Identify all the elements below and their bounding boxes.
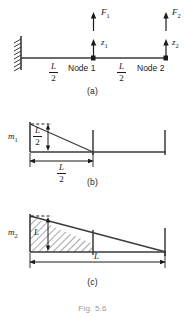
dof-arrow-z1: [91, 39, 96, 57]
label-node-2: Node 2: [137, 64, 164, 73]
label-height-b: L 2: [33, 126, 42, 147]
dof-arrow-z2: [163, 39, 168, 57]
panel-b: [29, 122, 166, 167]
beam-element-figure: [0, 0, 185, 318]
label-moment-m1: m1: [8, 132, 18, 143]
label-height-c: L: [34, 228, 39, 237]
panel-caption-a: (a): [0, 86, 185, 96]
label-dof-z1: z1: [101, 38, 108, 49]
label-length-c: L: [94, 252, 99, 261]
label-span-2: L 2: [117, 62, 126, 83]
label-force-f2: F2: [172, 8, 181, 19]
fixed-support-a: [14, 36, 21, 71]
force-arrow-f2: [163, 12, 168, 31]
hatched-region-c: [30, 216, 93, 252]
vertical-dimension-b: [46, 124, 50, 151]
panel-caption-c: (c): [0, 277, 185, 287]
force-arrow-f1: [91, 12, 96, 31]
panel-caption-b: (b): [0, 177, 185, 187]
label-dof-z2: z2: [172, 38, 179, 49]
label-node-1: Node 1: [68, 64, 95, 73]
label-moment-m2: m2: [8, 228, 18, 239]
figure-caption: Fig. 5.6: [0, 304, 185, 313]
label-span-1: L 2: [49, 62, 58, 83]
label-force-f1: F1: [101, 8, 110, 19]
